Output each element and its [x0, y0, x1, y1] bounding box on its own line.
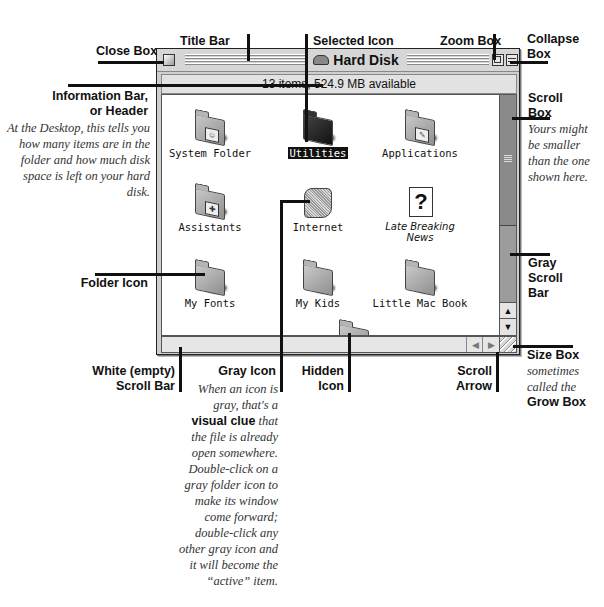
- callout-collapse-box: CollapseBox: [527, 32, 579, 62]
- scroll-down-arrow[interactable]: ▼: [500, 318, 516, 335]
- callout-scroll-box: ScrollBox: [528, 91, 563, 121]
- leader-line: [98, 61, 164, 64]
- assistants-folder-icon: ✚: [195, 188, 225, 220]
- icon-utilities[interactable]: Utilities: [268, 113, 368, 161]
- gray-folder-icon: [304, 188, 332, 218]
- folder-icon: [405, 264, 435, 296]
- icon-hidden[interactable]: [304, 323, 404, 336]
- note-size-box: sometimes called the: [527, 363, 604, 395]
- leader-line: [496, 352, 499, 392]
- leader-line: [305, 34, 308, 142]
- icon-view[interactable]: ☺ System Folder Utilities ✎ Applications…: [161, 94, 500, 336]
- callout-selected-icon: Selected Icon: [313, 34, 394, 49]
- vertical-scroll-bar[interactable]: ▲ ▼: [499, 94, 517, 336]
- callout-zoom-box: Zoom Box: [440, 34, 501, 49]
- icon-label: My Fonts: [183, 297, 238, 309]
- icon-little-mac-book[interactable]: Little Mac Book: [370, 263, 470, 311]
- note-information-bar: At the Desktop, this tells you how many …: [0, 120, 150, 200]
- title-bar-stripes: [407, 54, 489, 65]
- callout-white-scroll-bar: White (empty)Scroll Bar: [60, 364, 175, 394]
- callout-information-bar: Information Bar,or Header: [0, 89, 148, 119]
- callout-close-box: Close Box: [96, 44, 157, 59]
- leader-line: [247, 34, 250, 61]
- folder-icon: [195, 264, 225, 296]
- icon-label: My Kids: [294, 297, 342, 309]
- note-scroll-box: Yours might be smaller than the one show…: [528, 121, 600, 185]
- icon-label: Assistants: [176, 221, 243, 233]
- scroll-left-arrow[interactable]: ◀: [466, 337, 483, 352]
- callout-grow-box: Grow Box: [527, 395, 586, 410]
- scroll-right-arrow[interactable]: ▶: [482, 337, 499, 352]
- callout-folder-icon: Folder Icon: [60, 276, 148, 291]
- icon-late-breaking-news[interactable]: ? Late Breaking News: [370, 187, 470, 245]
- leader-line: [68, 84, 323, 87]
- collapse-box-button[interactable]: [506, 54, 518, 66]
- icon-my-kids[interactable]: My Kids: [268, 263, 368, 311]
- callout-scroll-arrow: ScrollArrow: [440, 364, 492, 394]
- callout-title-bar: Title Bar: [180, 34, 230, 49]
- leader-line: [280, 200, 283, 392]
- icon-label: Applications: [380, 147, 460, 159]
- icon-internet[interactable]: Internet: [268, 187, 368, 235]
- grip-icon: [504, 155, 512, 162]
- icon-assistants[interactable]: ✚ Assistants: [161, 187, 260, 235]
- window-title: Hard Disk: [305, 51, 407, 69]
- icon-label: System Folder: [167, 147, 253, 159]
- system-folder-icon: ☺: [195, 114, 225, 146]
- callout-gray-scroll-bar: GrayScrollBar: [528, 256, 563, 301]
- title-bar-stripes: [185, 54, 305, 65]
- callout-gray-icon: Gray Icon: [180, 364, 276, 379]
- scroll-up-arrow[interactable]: ▲: [500, 302, 516, 319]
- close-box-button[interactable]: [163, 54, 175, 66]
- callout-size-box: Size Box: [527, 348, 579, 363]
- scroll-box[interactable]: [500, 95, 516, 226]
- icon-label: Little Mac Book: [371, 297, 470, 309]
- note-gray-icon: When an icon is gray, that's a visual cl…: [176, 381, 278, 589]
- icon-label: Internet: [291, 221, 346, 233]
- window-title-text: Hard Disk: [333, 52, 398, 68]
- applications-folder-icon: ✎: [405, 114, 435, 146]
- title-bar[interactable]: Hard Disk: [157, 49, 519, 72]
- finder-window: Hard Disk 13 items, 524.9 MB available ☺…: [156, 48, 520, 355]
- icon-label-alias: Late Breaking News: [370, 221, 470, 243]
- icon-system-folder[interactable]: ☺ System Folder: [161, 113, 260, 161]
- hidden-folder-icon: [339, 324, 369, 336]
- document-alias-icon: ?: [409, 187, 433, 217]
- leader-line: [348, 333, 351, 392]
- horizontal-scroll-bar[interactable]: ◀ ▶: [161, 336, 500, 353]
- leader-line: [280, 200, 310, 203]
- icon-label-selected: Utilities: [288, 147, 349, 159]
- icon-my-fonts[interactable]: My Fonts: [161, 263, 260, 311]
- callout-hidden-icon: HiddenIcon: [300, 364, 344, 394]
- icon-applications[interactable]: ✎ Applications: [370, 113, 470, 161]
- hard-disk-icon: [313, 55, 329, 65]
- folder-icon: [303, 264, 333, 296]
